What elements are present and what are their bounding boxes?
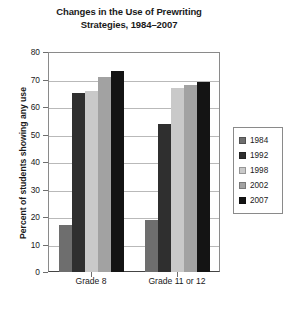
legend-label-2002: 2002 [250, 181, 268, 190]
bar-1998-grade-11-or-12 [171, 88, 184, 272]
legend-label-1998: 1998 [250, 166, 268, 175]
legend-swatch-2002 [239, 182, 246, 189]
bar-2007-grade-11-or-12 [197, 82, 210, 272]
chart-title: Changes in the Use of Prewriting Strateg… [34, 6, 224, 31]
bar-groups [48, 52, 220, 272]
legend-label-1984: 1984 [250, 136, 268, 145]
bar-group [134, 52, 220, 272]
bar-2007-grade-8 [111, 71, 124, 272]
y-tick-label: 70 [31, 75, 40, 85]
y-tick-label: 40 [31, 157, 40, 167]
bar-1992-grade-11-or-12 [158, 124, 171, 273]
legend-swatch-1998 [239, 167, 246, 174]
y-axis-title: Percent of students showing any use [18, 58, 28, 268]
bar-1984-grade-8 [59, 225, 72, 272]
chart-title-line-1: Changes in the Use of Prewriting [34, 6, 224, 19]
legend-item-2002[interactable]: 2002 [239, 178, 278, 193]
y-tick-label: 30 [31, 185, 40, 195]
bar-2002-grade-11-or-12 [184, 85, 197, 272]
legend-label-2007: 2007 [250, 196, 268, 205]
chart-title-line-2: Strategies, 1984–2007 [34, 19, 224, 32]
chart-legend: 19841992199820022007 [233, 127, 283, 214]
x-axis-label: Grade 8 [48, 276, 134, 286]
y-tick-mark [43, 272, 48, 273]
x-axis-label: Grade 11 or 12 [134, 276, 220, 286]
bar-1992-grade-8 [72, 93, 85, 272]
bar-1984-grade-11-or-12 [145, 220, 158, 272]
legend-swatch-2007 [239, 197, 246, 204]
legend-swatch-1984 [239, 137, 246, 144]
y-tick-label: 60 [31, 102, 40, 112]
chart-figure: Changes in the Use of Prewriting Strateg… [0, 0, 298, 320]
x-axis-labels: Grade 8Grade 11 or 12 [48, 276, 220, 286]
bar-2002-grade-8 [98, 77, 111, 272]
legend-item-1992[interactable]: 1992 [239, 148, 278, 163]
legend-item-2007[interactable]: 2007 [239, 193, 278, 208]
y-tick-label: 50 [31, 130, 40, 140]
legend-item-1984[interactable]: 1984 [239, 133, 278, 148]
bar-1998-grade-8 [85, 91, 98, 273]
y-tick-label: 0 [35, 267, 40, 277]
y-tick-label: 10 [31, 240, 40, 250]
y-tick-label: 20 [31, 212, 40, 222]
legend-item-1998[interactable]: 1998 [239, 163, 278, 178]
bar-group [48, 52, 134, 272]
y-tick-label: 80 [31, 47, 40, 57]
legend-swatch-1992 [239, 152, 246, 159]
legend-label-1992: 1992 [250, 151, 268, 160]
